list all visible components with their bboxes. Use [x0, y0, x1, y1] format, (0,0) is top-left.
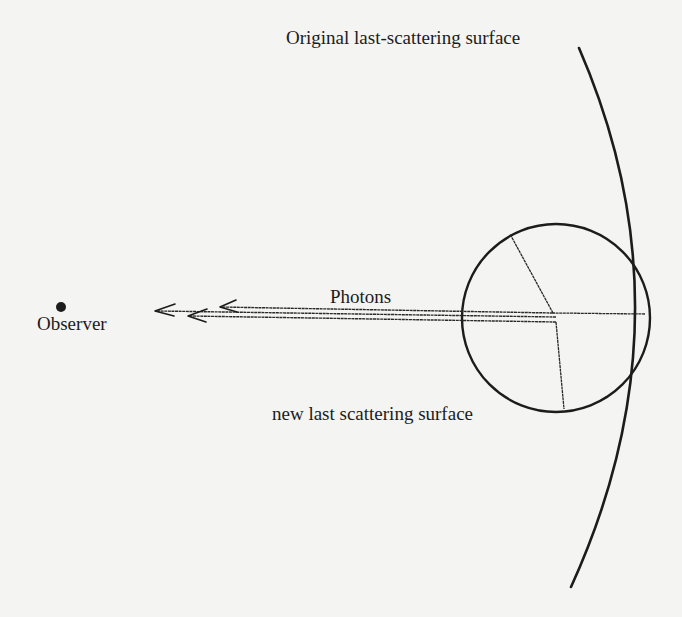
original-surface-label: Original last-scattering surface	[286, 28, 520, 47]
photons-label: Photons	[330, 287, 391, 306]
figure-canvas: Original last-scattering surface Photons…	[0, 0, 682, 617]
observer-label: Observer	[37, 314, 107, 333]
observer-dot	[56, 302, 66, 312]
original-last-scattering-surface-arc	[571, 48, 635, 587]
arrowhead-icon	[220, 300, 237, 312]
new-surface-label: new last scattering surface	[272, 404, 473, 423]
new-last-scattering-surface-circle	[462, 224, 650, 412]
photon-paths	[158, 307, 556, 322]
arrowhead-icon	[155, 304, 175, 316]
diagram-graphic	[0, 0, 682, 617]
